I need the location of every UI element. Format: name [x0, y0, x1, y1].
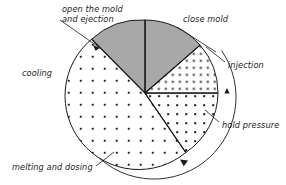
label-cooling: cooling: [22, 68, 52, 78]
cycle-diagram-svg: open the mold and ejection close mold in…: [0, 0, 286, 185]
arc-arrowhead-right: [224, 88, 229, 94]
label-open-mold-line2: and ejection: [62, 14, 114, 24]
arc-arrowhead-bottom: [180, 159, 188, 166]
label-open-mold-line1: open the mold: [62, 4, 124, 14]
label-close-mold: close mold: [183, 14, 229, 24]
label-hold-pressure: hold pressure: [222, 120, 279, 130]
leader-open-mold-and-ejection: [60, 20, 100, 48]
label-injection: injection: [228, 60, 264, 70]
injection-molding-cycle-diagram: open the mold and ejection close mold in…: [0, 0, 286, 185]
label-melting-and-dosing: melting and dosing: [12, 162, 93, 172]
